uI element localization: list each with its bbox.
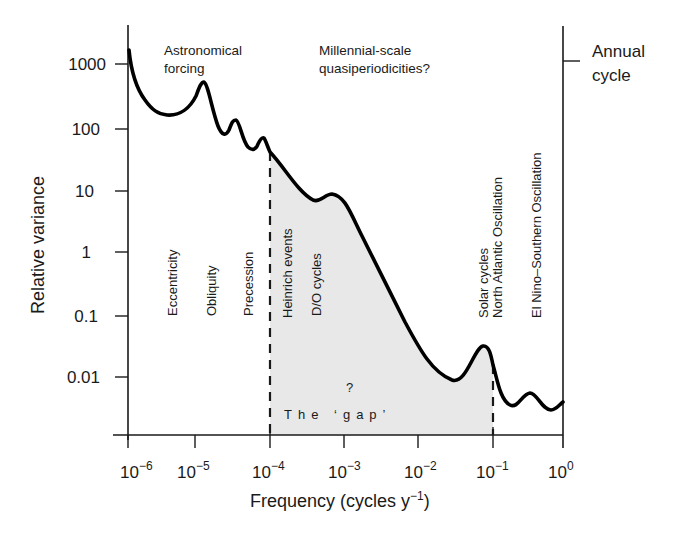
millennial-scale-label: Millennial-scalequasiperiodicities? xyxy=(319,43,430,76)
y-tick-label: 10 xyxy=(75,182,94,201)
x-tick-label-1e-1: 10−1 xyxy=(476,459,509,482)
y-axis-title: Relative variance xyxy=(28,176,48,314)
astronomical-forcing-label: Astronomicalforcing xyxy=(164,43,242,76)
precession-label: Precession xyxy=(241,252,256,316)
y-ticks xyxy=(115,64,128,377)
y-tick-label: 0.1 xyxy=(74,307,98,326)
gap-label: The ‘gap’ xyxy=(284,407,391,422)
x-tick-label-1e-3: 10−3 xyxy=(328,459,361,482)
x-tick-label-1e-4: 10−4 xyxy=(252,459,285,482)
svg-text:10−5: 10−5 xyxy=(177,459,210,482)
solar-cycles-label: Solar cycles xyxy=(476,247,491,318)
svg-text:10−3: 10−3 xyxy=(328,459,361,482)
y-tick-label: 100 xyxy=(72,120,100,139)
obliquity-label: Obliquity xyxy=(204,265,219,316)
svg-text:10−6: 10−6 xyxy=(120,459,153,482)
svg-text:100: 100 xyxy=(548,459,574,482)
svg-text:10−4: 10−4 xyxy=(252,459,285,482)
spectrum-chart: 1000 100 10 1 0.1 0.01 10−6 10−5 10−4 10… xyxy=(0,0,673,540)
x-tick-label-1e-5: 10−5 xyxy=(177,459,210,482)
svg-text:10−2: 10−2 xyxy=(404,459,437,482)
y-tick-label: 1000 xyxy=(68,55,106,74)
y-tick-label: 1 xyxy=(82,243,91,262)
x-axis-title: Frequency (cycles y−1) xyxy=(250,489,430,511)
annual-cycle-label: Annualcycle xyxy=(592,42,645,85)
eccentricity-label: Eccentricity xyxy=(165,249,180,316)
enso-label: El Nino–Southern Oscillation xyxy=(529,153,544,318)
heinrich-events-label: Heinrich events xyxy=(280,228,295,318)
svg-text:10−1: 10−1 xyxy=(476,459,509,482)
x-tick-label-1e-2: 10−2 xyxy=(404,459,437,482)
x-tick-label-1e-6: 10−6 xyxy=(120,459,153,482)
gap-question-mark: ? xyxy=(346,380,353,395)
y-tick-label: 0.01 xyxy=(67,368,100,387)
north-atlantic-oscillation-label: North Atlantic Oscillation xyxy=(490,177,505,318)
x-tick-label-1e0: 100 xyxy=(548,459,574,482)
do-cycles-label: D/O cycles xyxy=(309,253,324,316)
